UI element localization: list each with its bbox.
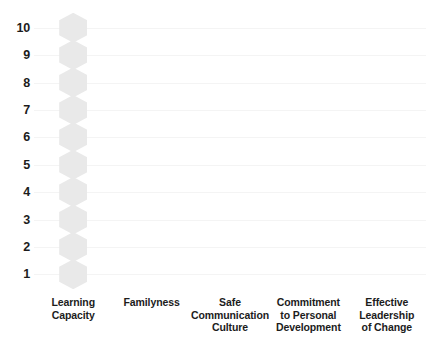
y-tick-label: 10 (0, 21, 30, 34)
x-tick-label: SafeCommunicationCulture (191, 296, 269, 334)
x-tick-label-line: Capacity (34, 309, 112, 322)
x-tick-label: LearningCapacity (34, 296, 112, 321)
hexagon-marker (59, 40, 87, 70)
series-column (191, 14, 269, 288)
x-tick-label-line: Culture (191, 321, 269, 334)
y-tick-label: 2 (0, 241, 30, 254)
x-tick-label-line: Safe (191, 296, 269, 309)
series-column (348, 14, 426, 288)
hexagon-marker (59, 177, 87, 207)
y-tick-label: 6 (0, 131, 30, 144)
hexagon-marker (59, 13, 87, 43)
series-column (112, 14, 190, 288)
x-tick-label-line: Leadership (348, 309, 426, 322)
y-tick-label: 4 (0, 186, 30, 199)
y-tick-label: 5 (0, 158, 30, 171)
x-tick-label-line: Communication (191, 309, 269, 322)
x-tick-label-line: of Change (348, 321, 426, 334)
y-tick-label: 1 (0, 268, 30, 281)
hexagon-marker (59, 95, 87, 125)
x-tick-label-line: Familyness (112, 296, 190, 309)
hexagon-scale-chart: 10987654321 LearningCapacityFamilynessSa… (0, 0, 440, 353)
y-tick-label: 8 (0, 76, 30, 89)
x-axis: LearningCapacityFamilynessSafeCommunicat… (34, 296, 426, 348)
series-column (269, 14, 347, 288)
x-tick-label: EffectiveLeadershipof Change (348, 296, 426, 334)
x-tick-label-line: to Personal (269, 309, 347, 322)
hexagon-marker (59, 232, 87, 262)
y-tick-label: 9 (0, 49, 30, 62)
x-tick-label-line: Commitment (269, 296, 347, 309)
x-tick-label: Commitmentto PersonalDevelopment (269, 296, 347, 334)
hexagon-marker (59, 150, 87, 180)
x-tick-label-line: Effective (348, 296, 426, 309)
y-tick-label: 7 (0, 104, 30, 117)
hexagon-marker (59, 122, 87, 152)
hexagon-marker (59, 68, 87, 98)
hexagon-marker (59, 259, 87, 289)
hexagon-marker (59, 205, 87, 235)
plot-area (34, 14, 426, 288)
y-axis: 10987654321 (0, 14, 30, 288)
x-tick-label-line: Development (269, 321, 347, 334)
series-column (34, 14, 112, 288)
x-tick-label-line: Learning (34, 296, 112, 309)
y-tick-label: 3 (0, 213, 30, 226)
x-tick-label: Familyness (112, 296, 190, 309)
